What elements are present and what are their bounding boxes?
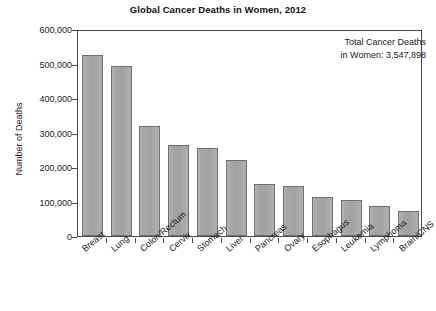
- annotation-line-1: Total Cancer Deaths: [341, 36, 426, 49]
- x-tick-mark: [106, 238, 107, 243]
- bar: [226, 160, 247, 236]
- y-tick-label: 200,000: [6, 163, 72, 173]
- plot-area: [77, 30, 422, 237]
- bar: [82, 55, 103, 236]
- bar-series: [78, 31, 421, 236]
- x-tick-mark: [163, 238, 164, 243]
- y-tick-label: 400,000: [6, 94, 72, 104]
- bar-chart-figure: Global Cancer Deaths in Women, 2012 Numb…: [0, 0, 436, 311]
- x-tick-mark: [336, 238, 337, 243]
- x-tick-mark: [307, 238, 308, 243]
- x-tick-mark: [365, 238, 366, 243]
- y-tick-label: 500,000: [6, 60, 72, 70]
- x-tick-mark: [192, 238, 193, 243]
- x-tick-mark: [393, 238, 394, 243]
- x-tick-mark: [135, 238, 136, 243]
- bar: [139, 126, 160, 236]
- bar: [197, 148, 218, 236]
- x-tick-mark: [221, 238, 222, 243]
- x-tick-mark: [250, 238, 251, 243]
- bar: [111, 66, 132, 236]
- y-tick-label: 600,000: [6, 25, 72, 35]
- y-tick-label: 100,000: [6, 198, 72, 208]
- annotation-line-2: in Women: 3,547,898: [341, 49, 426, 62]
- chart-title: Global Cancer Deaths in Women, 2012: [0, 4, 436, 15]
- x-tick-mark: [278, 238, 279, 243]
- y-tick-label: 0: [6, 232, 72, 242]
- y-tick-label: 300,000: [6, 129, 72, 139]
- total-deaths-annotation: Total Cancer Deaths in Women: 3,547,898: [341, 36, 426, 61]
- y-tick-mark: [72, 237, 77, 238]
